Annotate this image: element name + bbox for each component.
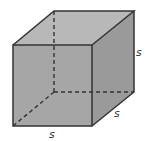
cube-front-face [13, 45, 92, 126]
label-right-edge: s [136, 46, 142, 59]
label-depth-edge: s [114, 107, 120, 120]
label-bottom-edge: s [49, 128, 55, 141]
cube-diagram: s s s [0, 0, 145, 141]
